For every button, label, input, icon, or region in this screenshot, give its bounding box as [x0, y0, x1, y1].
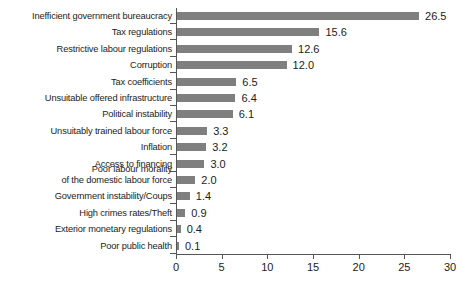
category-label: Tax regulations	[2, 24, 172, 40]
value-tick-label: 20	[344, 260, 374, 274]
plot-area: Inefficient government bureaucracy26.5Ta…	[0, 0, 469, 284]
bar-value-label: 6.5	[242, 74, 257, 90]
value-tick-label: 10	[252, 260, 282, 274]
bar-row: High crimes rates/Theft0.9	[0, 205, 469, 221]
bar-value-label: 15.6	[325, 24, 346, 40]
bar-row: Tax regulations15.6	[0, 24, 469, 40]
bar-value-label: 0.1	[185, 238, 200, 254]
bar-value-label: 6.4	[241, 90, 256, 106]
category-label-line: Poor labour morality	[2, 164, 172, 175]
bar-value-label: 12.0	[293, 57, 314, 73]
bar	[177, 209, 185, 217]
bar-value-label: 0.4	[187, 221, 202, 237]
bar	[177, 143, 206, 151]
bar	[177, 110, 233, 118]
bar-row: Unsuitable offered infrastructure6.4	[0, 90, 469, 106]
bar-value-label: 6.1	[239, 106, 254, 122]
bar	[177, 94, 235, 102]
bar	[177, 160, 204, 168]
bar-value-label: 1.4	[196, 188, 211, 204]
bar	[177, 176, 195, 184]
bar-value-label: 3.2	[212, 139, 227, 155]
category-label: Poor public health	[2, 238, 172, 254]
bar	[177, 28, 319, 36]
bar	[177, 225, 181, 233]
category-label: Corruption	[2, 57, 172, 73]
category-label: Unsuitably trained labour force	[2, 123, 172, 139]
bar-row: Inflation3.2	[0, 139, 469, 155]
bar	[177, 12, 419, 20]
bar	[177, 192, 190, 200]
bar-row: Tax coefficients6.5	[0, 74, 469, 90]
bar-row: Unsuitably trained labour force3.3	[0, 123, 469, 139]
value-tick-label: 25	[389, 260, 419, 274]
bar-row: Restrictive labour regulations12.6	[0, 41, 469, 57]
bar-row: Poor labour moralityof the domestic labo…	[0, 172, 469, 188]
bar-value-label: 3.3	[213, 123, 228, 139]
value-tick	[222, 254, 223, 259]
category-label-line: of the domestic labour force	[2, 175, 172, 186]
category-label: Unsuitable offered infrastructure	[2, 90, 172, 106]
bar-row: Poor public health0.1	[0, 238, 469, 254]
category-label: Government instability/Coups	[2, 188, 172, 204]
bar-value-label: 26.5	[425, 8, 446, 24]
bar	[177, 127, 207, 135]
bar-row: Corruption12.0	[0, 57, 469, 73]
value-tick	[404, 254, 405, 259]
category-label: Restrictive labour regulations	[2, 41, 172, 57]
value-tick	[313, 254, 314, 259]
value-tick	[359, 254, 360, 259]
bar	[177, 61, 287, 69]
bar-row: Inefficient government bureaucracy26.5	[0, 8, 469, 24]
bar-row: Political instability6.1	[0, 106, 469, 122]
category-label: Political instability	[2, 106, 172, 122]
category-label: Poor labour moralityof the domestic labo…	[2, 164, 172, 185]
category-label: Tax coefficients	[2, 74, 172, 90]
value-tick	[176, 254, 177, 259]
value-tick-label: 30	[435, 260, 465, 274]
bar	[177, 45, 292, 53]
bar-value-label: 0.9	[191, 205, 206, 221]
bar-value-label: 2.0	[201, 172, 216, 188]
value-tick	[267, 254, 268, 259]
value-tick-label: 15	[298, 260, 328, 274]
value-tick-label: 5	[207, 260, 237, 274]
bar	[177, 242, 179, 250]
category-label: Inflation	[2, 139, 172, 155]
value-tick	[450, 254, 451, 259]
category-label: Inefficient government bureaucracy	[2, 8, 172, 24]
bar-chart: Inefficient government bureaucracy26.5Ta…	[0, 0, 469, 284]
bar	[177, 78, 236, 86]
category-label: High crimes rates/Theft	[2, 205, 172, 221]
bar-value-label: 12.6	[298, 41, 319, 57]
bar-value-label: 3.0	[210, 156, 225, 172]
category-label: Exterior monetary regulations	[2, 221, 172, 237]
bar-row: Exterior monetary regulations0.4	[0, 221, 469, 237]
bar-row: Government instability/Coups1.4	[0, 188, 469, 204]
value-tick-label: 0	[161, 260, 191, 274]
